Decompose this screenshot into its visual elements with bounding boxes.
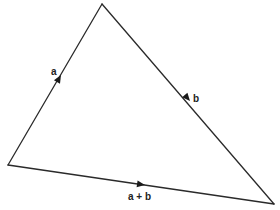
vector-a-plus-b-label: a + b: [128, 191, 151, 202]
vector-a-label: a: [51, 66, 57, 77]
vector-b-line: [102, 4, 274, 204]
vector-a-line: [8, 4, 102, 165]
vector-b-arrowhead-icon: [182, 93, 193, 104]
vector-b: b: [102, 4, 274, 204]
vector-a-plus-b: a + b: [8, 165, 274, 204]
vector-triangle-diagram: a b a + b: [0, 0, 280, 210]
vector-a: a: [8, 4, 102, 165]
vector-b-label: b: [193, 93, 199, 104]
